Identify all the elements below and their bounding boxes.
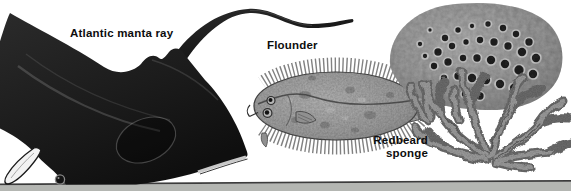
flounder-body	[254, 72, 418, 140]
flounder-eye-upper-pupil	[269, 98, 273, 102]
flounder-eye-lower-pupil	[265, 110, 269, 114]
manta-eye-highlight	[58, 177, 60, 179]
label-redbeard-sponge: Redbeard sponge	[348, 134, 428, 160]
label-atlantic-manta-ray: Atlantic manta ray	[70, 27, 173, 40]
label-redbeard-sponge-line2: sponge	[348, 147, 428, 160]
label-redbeard-sponge-line1: Redbeard	[348, 134, 428, 147]
illustration-canvas: Atlantic manta ray Flounder Redbeard spo…	[0, 0, 571, 191]
manta-eye	[55, 175, 64, 184]
label-flounder: Flounder	[267, 39, 318, 52]
